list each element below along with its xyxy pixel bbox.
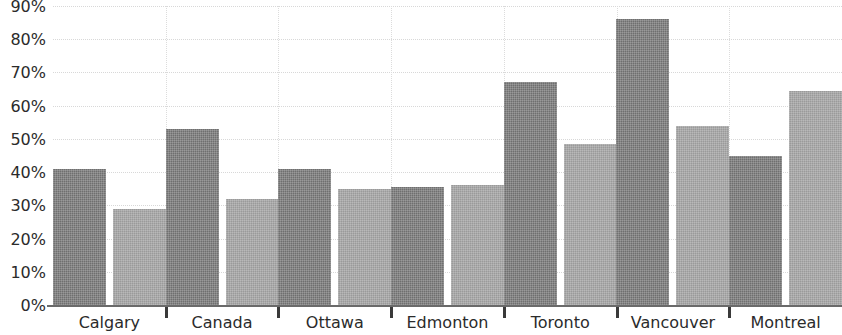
bar [391,187,444,305]
bar [789,91,842,305]
x-axis-tick-label: Montreal [750,313,820,332]
x-axis-tick [277,307,280,318]
x-axis-tick-label: Calgary [79,313,140,332]
y-axis-tick-label: 60% [10,96,46,115]
x-axis-tick-label: Vancouver [631,313,715,332]
bars-layer [53,6,842,305]
y-axis-tick-label: 80% [10,30,46,49]
bar [113,209,166,305]
plot-area [53,6,842,305]
y-axis-tick-label: 20% [10,229,46,248]
y-axis-tick-label: 70% [10,63,46,82]
bar [616,19,669,305]
x-axis-tick-label: Ottawa [306,313,364,332]
x-axis-tick [616,307,619,318]
y-axis-tick-label: 90% [10,0,46,16]
x-axis-tick-label: Canada [192,313,253,332]
bar [504,82,557,305]
y-axis-tick-label: 50% [10,129,46,148]
x-axis-tick [390,307,393,318]
bar [226,199,279,305]
x-axis-tick-label: Toronto [531,313,590,332]
x-axis-tick [503,307,506,318]
bar [729,156,782,306]
y-axis-tick-label: 10% [10,262,46,281]
y-axis-tick-label: 0% [21,296,46,315]
x-axis-tick [728,307,731,318]
bar [451,185,504,305]
bar [338,189,391,305]
bar-chart: 0%10%20%30%40%50%60%70%80%90% CalgaryCan… [0,0,842,335]
bar [676,126,729,305]
y-axis-tick-label: 40% [10,163,46,182]
x-axis-tick [165,307,168,318]
bar [564,144,617,305]
x-axis-tick-label: Edmonton [407,313,489,332]
bar [278,169,331,305]
bar [53,169,106,305]
y-axis: 0%10%20%30%40%50%60%70%80%90% [0,0,52,335]
bar [166,129,219,305]
y-axis-tick-label: 30% [10,196,46,215]
